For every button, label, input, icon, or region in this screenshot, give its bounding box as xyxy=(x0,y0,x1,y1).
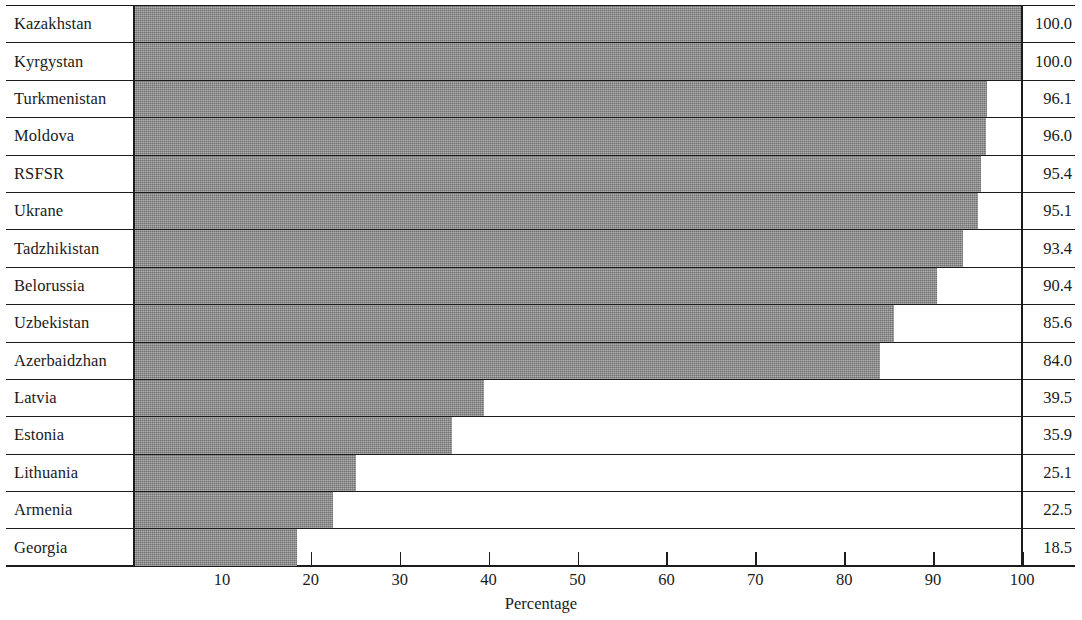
x-axis-tick-label: 70 xyxy=(747,570,764,590)
x-axis-tick-mark xyxy=(400,552,402,565)
category-label: Azerbaidzhan xyxy=(14,351,107,371)
table-row: Armenia22.5 xyxy=(6,491,1075,528)
x-axis-tick-mark xyxy=(755,552,757,565)
bar xyxy=(133,43,1022,79)
bar xyxy=(133,6,1022,42)
bar xyxy=(133,118,986,154)
x-axis-tick-mark xyxy=(844,552,846,565)
table-row: Turkmenistan96.1 xyxy=(6,80,1075,117)
category-label: Turkmenistan xyxy=(14,89,106,109)
category-label: Lithuania xyxy=(14,463,78,483)
table-row: Azerbaidzhan84.0 xyxy=(6,342,1075,379)
category-label: Armenia xyxy=(14,500,72,520)
bar xyxy=(133,193,978,229)
table-row: Kazakhstan100.0 xyxy=(6,5,1075,42)
bar xyxy=(133,156,981,192)
bar xyxy=(133,305,894,341)
x-axis-tick-label: 30 xyxy=(391,570,408,590)
table-row: Georgia18.5 xyxy=(6,528,1075,565)
category-label: Latvia xyxy=(14,388,57,408)
value-label: 100.0 xyxy=(1035,14,1072,34)
axis-zero-line xyxy=(133,5,135,566)
category-label: Moldova xyxy=(14,126,74,146)
x-axis-tick-mark xyxy=(311,552,313,565)
bar xyxy=(133,230,963,266)
value-label: 96.1 xyxy=(1043,89,1072,109)
bar xyxy=(133,380,484,416)
x-axis-tick-label: 100 xyxy=(1010,570,1035,590)
x-axis-tick-label: 40 xyxy=(480,570,497,590)
table-row: Kyrgystan100.0 xyxy=(6,42,1075,79)
x-axis-tick-mark xyxy=(666,552,668,565)
category-label: Tadzhikistan xyxy=(14,239,99,259)
x-axis-tick-label: 60 xyxy=(658,570,675,590)
value-label: 100.0 xyxy=(1035,52,1072,72)
bar xyxy=(133,81,987,117)
value-label: 95.4 xyxy=(1043,164,1072,184)
bar xyxy=(133,343,880,379)
horizontal-bar-chart: Kazakhstan100.0Kyrgystan100.0Turkmenista… xyxy=(0,0,1082,620)
value-column-divider xyxy=(1021,5,1023,566)
category-label: Estonia xyxy=(14,425,64,445)
table-row: Belorussia90.4 xyxy=(6,267,1075,304)
value-label: 96.0 xyxy=(1043,126,1072,146)
value-label: 93.4 xyxy=(1043,239,1072,259)
x-axis-tick-label: 90 xyxy=(925,570,942,590)
category-label: RSFSR xyxy=(14,164,64,184)
category-label: Belorussia xyxy=(14,276,85,296)
value-label: 18.5 xyxy=(1043,538,1072,558)
bar xyxy=(133,268,937,304)
x-axis-tick-label: 80 xyxy=(836,570,853,590)
value-label: 85.6 xyxy=(1043,313,1072,333)
table-row: Ukrane95.1 xyxy=(6,192,1075,229)
bar xyxy=(133,529,297,565)
table-row: Moldova96.0 xyxy=(6,117,1075,154)
value-label: 35.9 xyxy=(1043,425,1072,445)
bar xyxy=(133,455,356,491)
table-row: Estonia35.9 xyxy=(6,416,1075,453)
bar xyxy=(133,417,452,453)
table-row: Tadzhikistan93.4 xyxy=(6,229,1075,266)
x-axis-tick-label: 50 xyxy=(569,570,586,590)
value-label: 22.5 xyxy=(1043,500,1072,520)
value-label: 95.1 xyxy=(1043,201,1072,221)
x-axis-title: Percentage xyxy=(0,594,1082,614)
table-row: Latvia39.5 xyxy=(6,379,1075,416)
value-label: 84.0 xyxy=(1043,351,1072,371)
x-axis-tick-label: 10 xyxy=(214,570,231,590)
table-row: RSFSR95.4 xyxy=(6,155,1075,192)
category-label: Kazakhstan xyxy=(14,14,92,34)
category-label: Kyrgystan xyxy=(14,52,83,72)
value-label: 25.1 xyxy=(1043,463,1072,483)
x-axis-tick-mark xyxy=(578,552,580,565)
category-label: Georgia xyxy=(14,538,68,558)
x-axis-title-label: Percentage xyxy=(505,594,577,613)
category-label: Ukrane xyxy=(14,201,63,221)
x-axis-tick-label: 20 xyxy=(303,570,320,590)
table-row: Lithuania25.1 xyxy=(6,454,1075,491)
x-axis-tick-mark xyxy=(489,552,491,565)
table-row: Uzbekistan85.6 xyxy=(6,304,1075,341)
category-label: Uzbekistan xyxy=(14,313,89,333)
value-label: 90.4 xyxy=(1043,276,1072,296)
value-label: 39.5 xyxy=(1043,388,1072,408)
chart-rows-container: Kazakhstan100.0Kyrgystan100.0Turkmenista… xyxy=(6,5,1075,566)
bar xyxy=(133,492,333,528)
x-axis-tick-mark xyxy=(933,552,935,565)
